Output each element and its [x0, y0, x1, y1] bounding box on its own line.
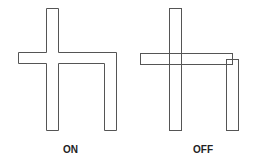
on-shape [19, 9, 117, 131]
on-outline [19, 9, 117, 131]
off-label: OFF [193, 144, 213, 155]
off-vertical-bar [170, 9, 182, 131]
off-right-leg [227, 60, 239, 131]
off-horizontal-bar [141, 54, 233, 65]
off-shape [141, 9, 239, 131]
on-label: ON [63, 144, 78, 155]
diagram-canvas [0, 0, 253, 161]
